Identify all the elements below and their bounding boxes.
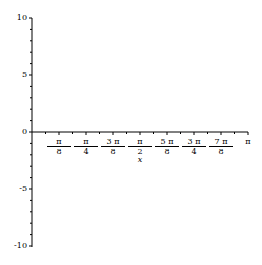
x-tick-label: π8: [47, 137, 71, 156]
y-ticks: [29, 18, 32, 246]
x-tick-label: 3 π8: [101, 137, 125, 156]
x-tick-label: π4: [74, 137, 98, 156]
y-tick-label: -10: [7, 241, 27, 250]
x-tick-label: π: [236, 137, 260, 146]
x-tick-label: 5 π8: [155, 137, 179, 156]
x-tick-label: 7 π8: [209, 137, 233, 156]
x-tick-label: 3 π4: [182, 137, 206, 156]
y-tick-label: 10: [7, 13, 27, 22]
y-tick-label: -5: [7, 184, 27, 193]
plot-area: [0, 0, 262, 265]
y-tick-label: 0: [7, 127, 27, 136]
x-tick-label: π2: [128, 137, 152, 156]
y-tick-label: 5: [7, 70, 27, 79]
x-axis-label: x: [130, 155, 150, 164]
